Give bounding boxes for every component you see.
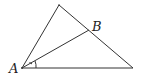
angle-arc-outer	[35, 61, 36, 68]
geometry-diagram: A B	[0, 0, 143, 81]
side-apex-right	[59, 5, 133, 68]
segment-AB	[22, 30, 89, 68]
label-A: A	[8, 61, 18, 76]
side-A-apex	[22, 5, 59, 68]
point-apex	[58, 4, 60, 6]
point-A	[21, 67, 23, 69]
label-B: B	[91, 19, 102, 34]
